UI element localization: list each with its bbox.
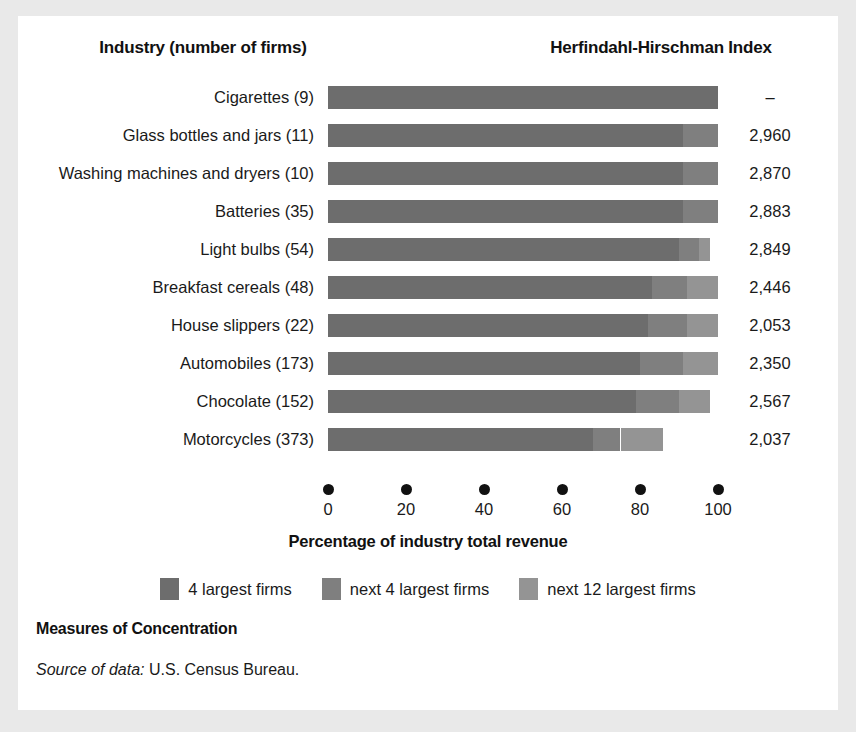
row-label-industry: Motorcycles (373) (18, 420, 314, 458)
x-axis-tick-label: 20 (376, 500, 436, 519)
chart-row: Breakfast cereals (48)2,446 (18, 268, 838, 306)
row-value-hhi: 2,567 (718, 382, 822, 420)
x-axis: 020406080100 (328, 484, 718, 532)
row-value-hhi: 2,446 (718, 268, 822, 306)
bar-segment-2 (683, 124, 718, 147)
row-label-industry: Chocolate (152) (18, 382, 314, 420)
figure-source: Source of data: U.S. Census Bureau. (36, 661, 299, 679)
bar-segment-3 (683, 352, 718, 375)
x-axis-title: Percentage of industry total revenue (198, 532, 658, 551)
bar-segment-1 (328, 200, 683, 223)
row-value-hhi: – (718, 78, 822, 116)
bar-segment-1 (328, 314, 648, 337)
bar-segment-1 (328, 238, 679, 261)
row-label-industry: Light bulbs (54) (18, 230, 314, 268)
figure-card: Industry (number of firms) Herfindahl-Hi… (18, 16, 838, 710)
bar-segment-2 (683, 162, 718, 185)
x-axis-tick-dot (323, 484, 334, 495)
bar-segment-3 (687, 276, 718, 299)
bar-segment-1 (328, 124, 683, 147)
x-axis-tick-dot (479, 484, 490, 495)
legend-label: next 12 largest firms (547, 580, 696, 599)
row-value-hhi: 2,960 (718, 116, 822, 154)
row-label-industry: Glass bottles and jars (11) (18, 116, 314, 154)
x-axis-tick-dot (557, 484, 568, 495)
legend-swatch (322, 578, 341, 600)
bar-segment-2 (636, 390, 679, 413)
bar-segment-2 (648, 314, 687, 337)
legend-label: next 4 largest firms (350, 580, 489, 599)
source-prefix: Source of data: (36, 661, 145, 678)
legend-swatch (160, 578, 179, 600)
row-label-industry: Cigarettes (9) (18, 78, 314, 116)
row-value-hhi: 2,037 (718, 420, 822, 458)
chart-row: Washing machines and dryers (10)2,870 (18, 154, 838, 192)
row-label-industry: House slippers (22) (18, 306, 314, 344)
chart-row: Chocolate (152)2,567 (18, 382, 838, 420)
x-axis-tick-label: 100 (688, 500, 748, 519)
legend-item: next 4 largest firms (322, 578, 489, 600)
bar-segment-1 (328, 276, 652, 299)
stacked-bar (328, 428, 718, 451)
legend-swatch (519, 578, 538, 600)
x-axis-tick-dot (401, 484, 412, 495)
bar-segment-2 (593, 428, 620, 451)
chart-row: Batteries (35)2,883 (18, 192, 838, 230)
bar-segment-1 (328, 352, 640, 375)
x-axis-tick-dot (635, 484, 646, 495)
x-axis-tick-label: 60 (532, 500, 592, 519)
bar-segment-2 (679, 238, 699, 261)
legend-item: 4 largest firms (160, 578, 292, 600)
figure-title: Measures of Concentration (36, 620, 237, 638)
row-value-hhi: 2,883 (718, 192, 822, 230)
stacked-bar (328, 86, 718, 109)
chart-row: House slippers (22)2,053 (18, 306, 838, 344)
row-value-hhi: 2,053 (718, 306, 822, 344)
legend-label: 4 largest firms (188, 580, 292, 599)
stacked-bar (328, 390, 718, 413)
bar-segment-2 (652, 276, 687, 299)
chart-legend: 4 largest firmsnext 4 largest firmsnext … (18, 572, 838, 606)
chart-row: Glass bottles and jars (11)2,960 (18, 116, 838, 154)
stacked-bar (328, 276, 718, 299)
bar-segment-2 (683, 200, 718, 223)
x-axis-tick-label: 0 (298, 500, 358, 519)
stacked-bar (328, 124, 718, 147)
row-label-industry: Washing machines and dryers (10) (18, 154, 314, 192)
x-axis-tick-dot (713, 484, 724, 495)
chart-row: Light bulbs (54)2,849 (18, 230, 838, 268)
row-value-hhi: 2,350 (718, 344, 822, 382)
legend-item: next 12 largest firms (519, 578, 696, 600)
bar-segment-3 (687, 314, 718, 337)
bar-segment-1 (328, 390, 636, 413)
chart-row: Cigarettes (9)– (18, 78, 838, 116)
source-text: U.S. Census Bureau. (149, 661, 299, 678)
row-label-industry: Automobiles (173) (18, 344, 314, 382)
bar-segment-3 (679, 390, 710, 413)
row-label-industry: Breakfast cereals (48) (18, 268, 314, 306)
stacked-bar (328, 162, 718, 185)
row-value-hhi: 2,870 (718, 154, 822, 192)
bar-segment-1 (328, 86, 718, 109)
stacked-bar (328, 238, 718, 261)
chart-row: Motorcycles (373)2,037 (18, 420, 838, 458)
chart-row: Automobiles (173)2,350 (18, 344, 838, 382)
stacked-bar (328, 314, 718, 337)
bar-segment-1 (328, 162, 683, 185)
bar-segment-3 (621, 428, 664, 451)
bar-segment-2 (640, 352, 683, 375)
stacked-bar (328, 200, 718, 223)
figure-page: Industry (number of firms) Herfindahl-Hi… (0, 0, 856, 732)
bar-segment-3 (699, 238, 711, 261)
bar-segment-1 (328, 428, 593, 451)
stacked-bar (328, 352, 718, 375)
row-label-industry: Batteries (35) (18, 192, 314, 230)
x-axis-tick-label: 40 (454, 500, 514, 519)
row-value-hhi: 2,849 (718, 230, 822, 268)
x-axis-tick-label: 80 (610, 500, 670, 519)
